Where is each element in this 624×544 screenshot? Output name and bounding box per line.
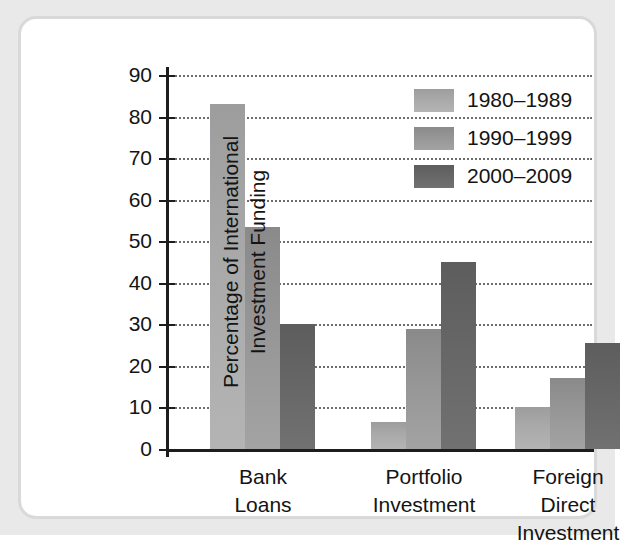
y-axis-tick bbox=[159, 117, 175, 119]
bar bbox=[441, 262, 476, 449]
y-axis-tick bbox=[159, 241, 175, 243]
y-axis-tick bbox=[159, 75, 175, 77]
x-axis-line bbox=[166, 449, 594, 452]
legend-swatch bbox=[414, 89, 454, 112]
y-axis-title: Percentage of InternationalInvestment Fu… bbox=[217, 82, 271, 442]
y-axis-tick-label: 90 bbox=[129, 63, 152, 87]
y-axis-tick bbox=[159, 366, 175, 368]
x-axis-category-label: ForeignDirectInvestment bbox=[468, 463, 624, 544]
y-axis-tick-label: 60 bbox=[129, 188, 152, 212]
y-axis-tick-label: 70 bbox=[129, 146, 152, 170]
y-axis-tick bbox=[159, 283, 175, 285]
y-axis-tick bbox=[159, 449, 175, 451]
bar bbox=[280, 324, 315, 449]
legend-swatch bbox=[414, 127, 454, 150]
y-axis-line bbox=[166, 67, 169, 457]
y-axis-tick bbox=[159, 200, 175, 202]
y-axis-tick-label: 50 bbox=[129, 229, 152, 253]
x-axis-category-label-line: Foreign bbox=[468, 463, 624, 491]
y-axis-tick-label: 0 bbox=[140, 437, 152, 461]
y-axis-title-line: Investment Funding bbox=[244, 82, 271, 442]
y-axis-tick bbox=[159, 324, 175, 326]
chart-legend: 1980–19891990–19992000–2009 bbox=[414, 81, 572, 195]
legend-swatch bbox=[414, 165, 454, 188]
legend-item[interactable]: 2000–2009 bbox=[414, 157, 572, 195]
legend-label: 1990–1999 bbox=[467, 126, 572, 150]
x-axis-category-label-line: Direct bbox=[468, 491, 624, 519]
legend-label: 1980–1989 bbox=[467, 88, 572, 112]
y-axis-tick bbox=[159, 158, 175, 160]
chart-panel: 0102030405060708090 Percentage of Intern… bbox=[18, 16, 597, 519]
y-axis-tick-label: 10 bbox=[129, 395, 152, 419]
legend-item[interactable]: 1980–1989 bbox=[414, 81, 572, 119]
x-axis-category-label-line: Investment bbox=[468, 519, 624, 544]
y-axis-tick-label: 40 bbox=[129, 271, 152, 295]
y-axis-tick-label: 20 bbox=[129, 354, 152, 378]
bar bbox=[515, 407, 550, 449]
y-axis-title-line: Percentage of International bbox=[217, 82, 244, 442]
bar bbox=[550, 378, 585, 449]
legend-label: 2000–2009 bbox=[467, 164, 572, 188]
bar bbox=[371, 422, 406, 449]
y-axis-tick bbox=[159, 407, 175, 409]
y-axis-tick-label: 30 bbox=[129, 312, 152, 336]
bar bbox=[406, 329, 441, 450]
legend-item[interactable]: 1990–1999 bbox=[414, 119, 572, 157]
plot-area: 0102030405060708090 Percentage of Intern… bbox=[168, 75, 598, 449]
bar bbox=[585, 343, 620, 449]
y-axis-tick-label: 80 bbox=[129, 105, 152, 129]
